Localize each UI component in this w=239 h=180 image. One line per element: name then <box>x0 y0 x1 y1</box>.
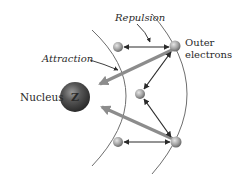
outer-electrons-label-line1: Outer <box>185 37 215 48</box>
nucleus-label: Nucleus <box>20 91 64 103</box>
repulsion-label: Repulsion <box>114 12 165 23</box>
outer-electrons-label-line2: electrons <box>185 49 232 60</box>
outer-shell-arc <box>152 14 187 174</box>
attraction-label: Attraction <box>41 53 93 64</box>
attraction-pointer-line <box>90 60 118 70</box>
electron-shielding-diagram: Z Repulsion Attraction Nucleus Outer ele… <box>0 0 239 180</box>
electron-outer-bottom <box>171 137 182 148</box>
nucleus-symbol: Z <box>71 91 79 104</box>
attraction-arrow-lower <box>102 107 173 139</box>
electron-outer-top <box>170 41 181 52</box>
electron-inner-top <box>113 42 123 52</box>
electron-inner-middle <box>135 89 145 99</box>
repulsion-pointer-line <box>137 24 150 42</box>
electron-inner-bottom <box>113 137 123 147</box>
